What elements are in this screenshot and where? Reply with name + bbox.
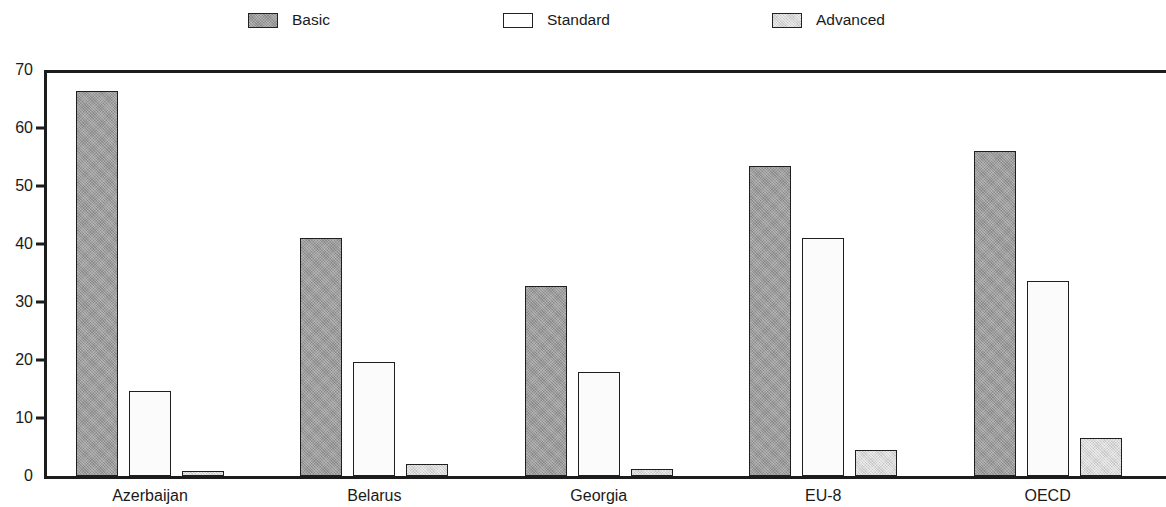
y-tick-label-70: 70 — [15, 62, 33, 78]
y-tick-mark-30 — [36, 301, 44, 304]
y-axis: 010203040506070 — [0, 70, 44, 479]
bar-georgia-standard — [578, 372, 620, 476]
bar-azerbaijan-advanced — [182, 471, 224, 476]
legend-swatch-advanced — [772, 13, 802, 28]
x-axis: AzerbaijanBelarusGeorgiaEU-8OECD — [44, 479, 1166, 507]
y-tick-label-40: 40 — [15, 236, 33, 252]
bar-azerbaijan-basic — [76, 91, 118, 476]
x-tick-label-eu-8: EU-8 — [805, 487, 841, 504]
y-tick-label-20: 20 — [15, 352, 33, 368]
y-tick-mark-40 — [36, 243, 44, 246]
y-tick-mark-10 — [36, 417, 44, 420]
legend-label-advanced: Advanced — [816, 12, 885, 28]
y-tick-label-50: 50 — [15, 178, 33, 194]
bar-eu-8-basic — [749, 166, 791, 476]
bar-georgia-basic — [525, 286, 567, 476]
x-tick-label-georgia: Georgia — [570, 487, 627, 504]
bar-oecd-standard — [1027, 281, 1069, 476]
bar-oecd-advanced — [1080, 438, 1122, 476]
bar-belarus-advanced — [406, 464, 448, 476]
x-tick-label-oecd: OECD — [1024, 487, 1070, 504]
bar-oecd-basic — [974, 151, 1016, 476]
legend-item-advanced: Advanced — [772, 11, 885, 29]
chart-legend: Basic Standard Advanced — [0, 0, 1166, 48]
legend-swatch-standard — [503, 13, 533, 28]
legend-item-standard: Standard — [503, 11, 610, 29]
legend-label-standard: Standard — [547, 12, 610, 28]
bar-eu-8-standard — [802, 238, 844, 476]
legend-item-basic: Basic — [248, 11, 330, 29]
bar-azerbaijan-standard — [129, 391, 171, 476]
legend-label-basic: Basic — [292, 12, 330, 28]
y-tick-label-0: 0 — [24, 468, 33, 484]
x-tick-label-azerbaijan: Azerbaijan — [112, 487, 188, 504]
y-tick-label-30: 30 — [15, 294, 33, 310]
y-tick-mark-50 — [36, 185, 44, 188]
y-tick-mark-20 — [36, 359, 44, 362]
bars-layer — [44, 70, 1166, 479]
y-tick-mark-60 — [36, 127, 44, 130]
bar-belarus-standard — [353, 362, 395, 476]
bar-georgia-advanced — [631, 469, 673, 476]
y-tick-label-60: 60 — [15, 120, 33, 136]
bar-eu-8-advanced — [855, 450, 897, 476]
y-tick-label-10: 10 — [15, 410, 33, 426]
bar-belarus-basic — [300, 238, 342, 476]
legend-swatch-basic — [248, 13, 278, 28]
x-tick-label-belarus: Belarus — [347, 487, 401, 504]
